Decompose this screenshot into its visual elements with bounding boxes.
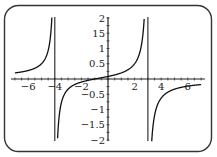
y-tick-label: −0.5 — [81, 89, 105, 100]
y-tick-label: −2 — [90, 135, 105, 146]
y-tick-label: 15 — [92, 28, 105, 39]
x-tick-label: −4 — [47, 81, 62, 92]
y-tick-label: 1 — [99, 43, 105, 54]
y-tick-label: −1 — [90, 104, 105, 115]
y-tick-label: 0.5 — [89, 58, 105, 69]
x-tick-label: −6 — [21, 81, 36, 92]
function-plot: −6−4−224621510.5−0.5−1−1.5−2 — [0, 0, 217, 157]
x-tick-label: 2 — [131, 81, 137, 92]
y-tick-label: −1.5 — [81, 119, 105, 130]
y-tick-label: 2 — [99, 13, 105, 24]
x-tick-label: 6 — [185, 81, 191, 92]
x-tick-label: 4 — [158, 81, 164, 92]
